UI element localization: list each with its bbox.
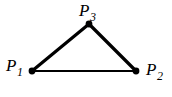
vertex-label-p1: P1	[6, 57, 23, 78]
triangle-figure: P1 P2 P3	[0, 0, 172, 97]
vertex-label-p1-base: P	[6, 56, 16, 75]
vertex-label-p3-subscript: 3	[90, 10, 96, 24]
vertex-dot-p1	[29, 68, 36, 75]
vertex-label-p1-subscript: 1	[17, 65, 23, 79]
edge-p3-p2	[89, 24, 136, 71]
vertex-label-p2-subscript: 2	[157, 69, 163, 83]
vertex-dot-p2	[133, 68, 140, 75]
vertex-label-p3-base: P	[79, 1, 89, 20]
vertex-label-p2: P2	[146, 61, 163, 82]
vertex-label-p2-base: P	[146, 60, 156, 79]
edge-p1-p3	[32, 24, 89, 71]
vertex-label-p3: P3	[79, 2, 96, 23]
